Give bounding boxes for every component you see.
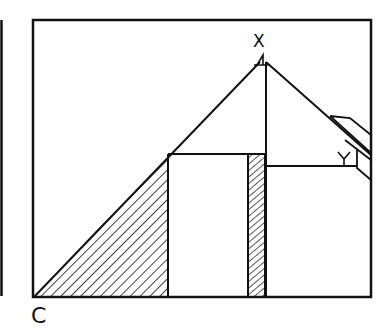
slope-x-to-right — [266, 62, 371, 155]
pencil-tool-icon — [330, 116, 371, 180]
label-x: X — [253, 31, 265, 51]
geometry-diagram: X Y C — [0, 0, 388, 328]
hatched-column — [248, 154, 265, 297]
label-c: C — [31, 303, 46, 328]
angle-marker-y — [338, 152, 350, 165]
